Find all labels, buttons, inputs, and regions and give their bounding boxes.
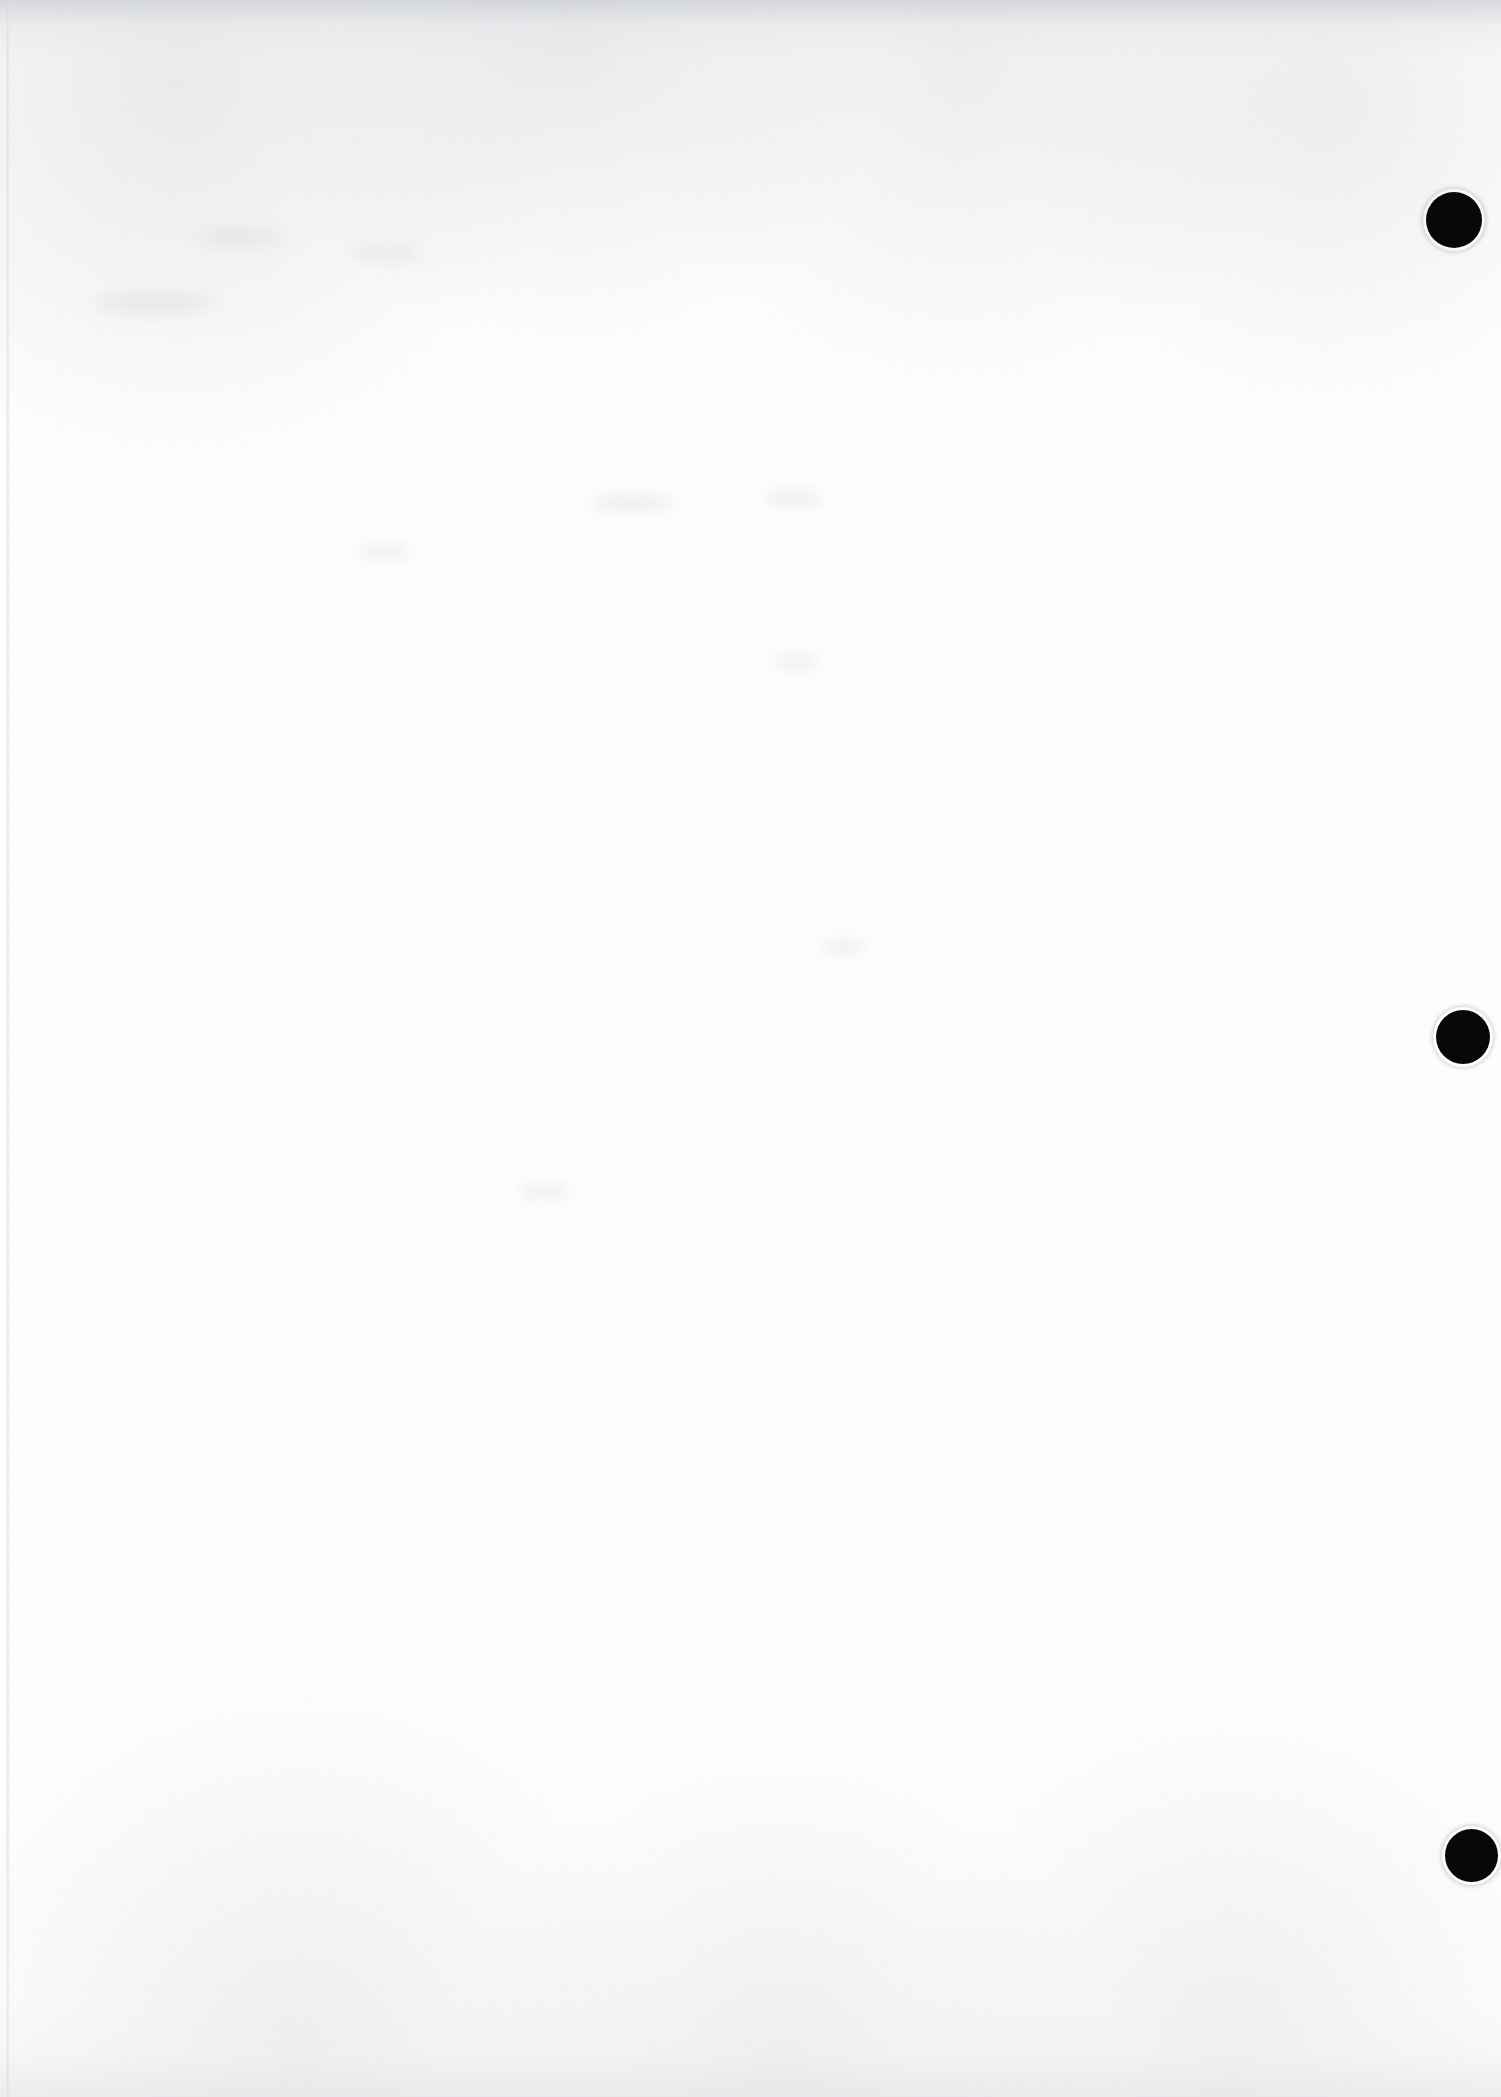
scan-edge-shadow-bottom [0,2005,1501,2097]
paper-surface [0,0,1501,2097]
registration-dot-middle [1436,1010,1490,1064]
binding-edge-line [6,0,10,2097]
scan-edge-shadow-top [0,0,1501,62]
scanned-page [0,0,1501,2097]
registration-dot-bottom [1445,1829,1498,1882]
registration-dot-top [1426,192,1482,248]
